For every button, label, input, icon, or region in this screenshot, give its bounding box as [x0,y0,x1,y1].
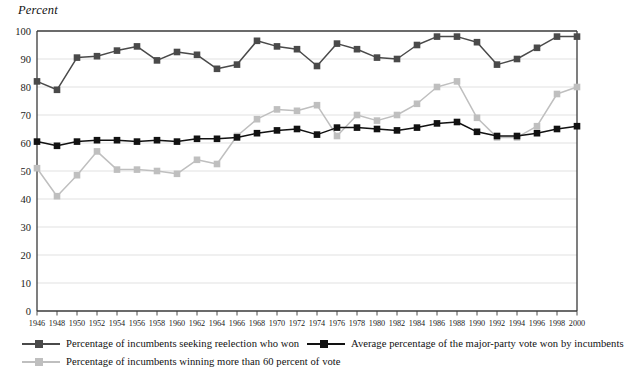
data-point-marker [314,63,321,70]
data-point-marker [154,168,161,175]
data-point-marker [534,130,541,137]
series-incumbents-won [34,33,581,93]
data-point-marker [494,61,501,68]
x-axis-tick-label: 1990 [469,319,485,328]
data-point-marker [134,166,141,173]
data-point-marker [434,84,441,91]
data-point-marker [34,165,41,172]
y-axis-tick-label: 30 [21,222,32,233]
y-axis-tick-label: 0 [26,306,31,317]
data-point-marker [114,137,121,144]
y-axis-tick-label: 90 [21,54,32,65]
data-point-marker [434,120,441,127]
legend-label-vote: Average percentage of the major-party vo… [351,338,624,349]
y-axis-tick-label: 20 [21,250,32,261]
x-axis-tick-label: 1968 [249,319,265,328]
legend-marker-vote [320,340,328,348]
x-axis-tick-label: 1972 [289,319,305,328]
data-point-marker [74,172,81,179]
x-axis-tick-label: 1950 [69,319,85,328]
x-axis-tick-label: 1974 [309,319,325,328]
y-axis-tick-label: 80 [21,82,32,93]
x-axis-tick-label: 1980 [369,319,385,328]
x-axis-tick-label: 1978 [349,319,365,328]
y-axis-tick-label: 100 [15,26,31,37]
data-point-marker [274,43,281,50]
data-point-marker [374,117,381,124]
data-point-marker [454,33,461,40]
data-point-marker [374,54,381,61]
data-point-marker [334,133,341,140]
data-point-marker [174,138,181,145]
data-point-marker [134,138,141,145]
legend-label-won: Percentage of incumbents seeking reelect… [66,338,299,349]
data-point-marker [294,108,301,115]
data-point-marker [514,133,521,140]
data-point-marker [354,124,361,131]
data-point-marker [334,124,341,131]
data-point-marker [534,123,541,130]
legend-label-sixty: Percentage of incumbents winning more th… [66,356,341,367]
x-axis-tick-label: 1988 [449,319,465,328]
series-avg-vote [34,119,581,149]
data-point-marker [254,116,261,123]
data-point-marker [114,47,121,54]
data-point-marker [74,54,81,61]
data-point-marker [214,66,221,73]
data-point-marker [554,33,561,40]
legend-swatch-vote [307,338,345,349]
x-axis-tick-label: 1966 [229,319,245,328]
legend-item-vote: Average percentage of the major-party vo… [307,338,624,349]
legend-item-sixty: Percentage of incumbents winning more th… [22,356,341,367]
data-point-marker [414,42,421,49]
data-point-marker [554,91,561,98]
x-axis-tick-label: 1958 [149,319,165,328]
data-point-marker [494,133,501,140]
y-axis-tick-label: 70 [21,110,32,121]
data-point-marker [34,78,41,85]
chart-legend: Percentage of incumbents seeking reelect… [0,334,593,380]
data-point-marker [154,57,161,64]
data-point-marker [474,39,481,46]
data-point-marker [294,46,301,53]
data-point-marker [394,56,401,63]
data-point-marker [514,56,521,63]
legend-item-won: Percentage of incumbents seeking reelect… [22,338,299,349]
data-point-marker [114,166,121,173]
data-point-marker [394,112,401,119]
data-point-marker [394,127,401,134]
x-axis-tick-label: 1998 [549,319,565,328]
y-axis-tick-label: 10 [21,278,32,289]
data-point-marker [474,115,481,122]
data-point-marker [134,43,141,50]
y-axis-tick-label: 40 [21,194,32,205]
data-point-marker [574,33,581,40]
data-point-marker [174,49,181,56]
x-axis-tick-label: 1982 [389,319,405,328]
data-point-marker [94,53,101,60]
data-point-marker [574,84,581,91]
data-point-marker [54,143,61,150]
x-axis-tick-label: 1986 [429,319,445,328]
data-point-marker [374,126,381,133]
data-point-marker [314,102,321,109]
data-point-marker [354,46,361,53]
x-axis-tick-label: 1956 [129,319,145,328]
legend-marker-sixty [35,358,43,366]
x-axis-tick-label: 1948 [49,319,65,328]
x-axis-tick-label: 1946 [29,319,45,328]
data-point-marker [294,126,301,133]
data-point-marker [214,136,221,143]
legend-swatch-won [22,338,60,349]
data-point-marker [94,148,101,155]
data-point-marker [334,40,341,47]
data-point-marker [234,61,241,68]
data-point-marker [254,38,261,45]
data-point-marker [74,138,81,145]
x-axis-tick-label: 1994 [509,319,525,328]
data-point-marker [534,45,541,52]
x-axis-tick-label: 1970 [269,319,285,328]
data-point-marker [54,193,61,200]
